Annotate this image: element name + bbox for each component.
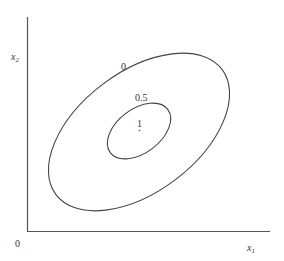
y-axis-label: x2 <box>11 52 19 65</box>
peak-dot <box>139 130 141 132</box>
y-axis-label-subscript: 2 <box>15 56 19 64</box>
x-axis-label: x1 <box>247 243 255 256</box>
contour-label-0: 0 <box>121 62 126 72</box>
peak-label-1: 1 <box>137 119 142 129</box>
origin-label: 0 <box>15 239 20 249</box>
contour-level-0 <box>20 21 258 242</box>
x-axis-label-subscript: 1 <box>251 247 255 255</box>
contour-label-0-5: 0.5 <box>135 93 148 103</box>
contour-diagram <box>0 0 284 261</box>
